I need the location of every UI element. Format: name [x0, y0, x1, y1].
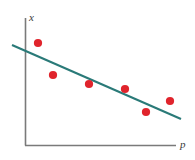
data-point [121, 85, 129, 93]
x-axis-label: p [180, 139, 186, 150]
trend-line [12, 45, 181, 119]
data-point [34, 39, 42, 47]
data-point-group [34, 39, 174, 116]
data-point [49, 71, 57, 79]
data-point [142, 108, 150, 116]
plot-canvas [0, 0, 195, 160]
data-point [85, 80, 93, 88]
data-point [166, 97, 174, 105]
scatter-plot-figure: x p [0, 0, 195, 160]
y-axis-label: x [29, 12, 34, 23]
